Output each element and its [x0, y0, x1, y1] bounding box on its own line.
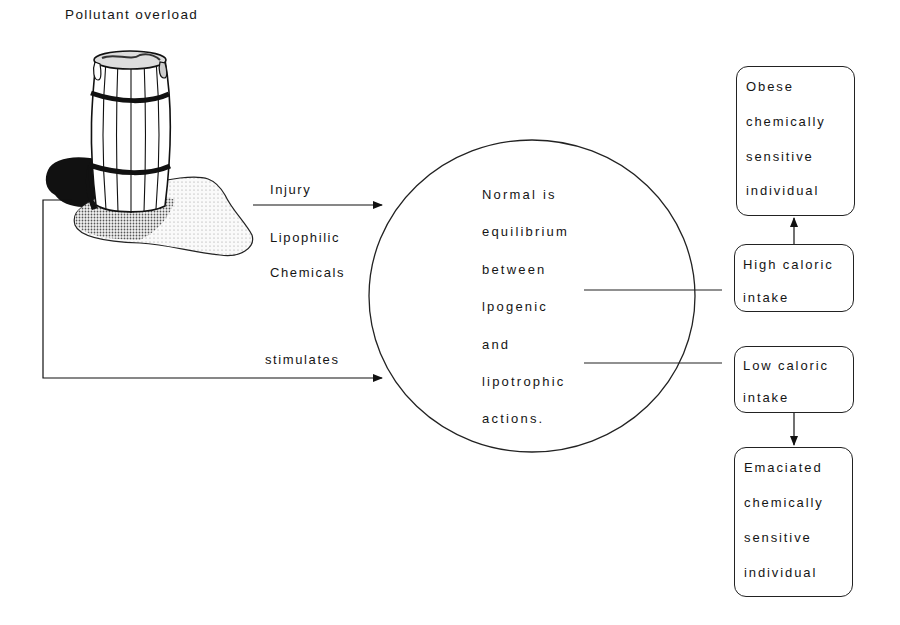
- center-line: actions.: [482, 400, 632, 437]
- box-line: individual: [746, 183, 819, 198]
- box-line: sensitive: [744, 530, 812, 545]
- obese-box: Obese chemically sensitive individual: [736, 66, 855, 216]
- center-line: between: [482, 251, 632, 288]
- chemicals-label: Chemicals: [270, 265, 345, 281]
- center-line: and: [482, 326, 632, 363]
- box-line: individual: [744, 565, 817, 580]
- source-label: Pollutant overload: [65, 7, 198, 23]
- injury-label: Injury: [270, 182, 311, 198]
- box-line: intake: [743, 290, 789, 305]
- box-line: sensitive: [746, 149, 814, 164]
- lipophilic-label: Lipophilic: [270, 230, 340, 246]
- low-caloric-intake-box: Low caloric intake: [734, 346, 854, 413]
- box-line: chemically: [746, 114, 826, 129]
- stimulates-label: stimulates: [265, 352, 340, 368]
- high-caloric-intake-box: High caloric intake: [734, 244, 854, 312]
- center-line: lpogenic: [482, 288, 632, 325]
- box-line: Emaciated: [744, 460, 823, 475]
- box-line: Obese: [746, 79, 794, 94]
- emaciated-box: Emaciated chemically sensitive individua…: [734, 447, 853, 597]
- center-line: equilibrium: [482, 213, 632, 250]
- overflowing-barrel-icon: [46, 51, 253, 256]
- box-line: Low caloric: [743, 358, 829, 373]
- center-line: Normal is: [482, 176, 632, 213]
- box-line: High caloric: [743, 257, 834, 272]
- equilibrium-text: Normal is equilibrium between lpogenic a…: [482, 176, 632, 438]
- box-line: intake: [743, 390, 789, 405]
- box-line: chemically: [744, 495, 824, 510]
- center-line: lipotrophic: [482, 363, 632, 400]
